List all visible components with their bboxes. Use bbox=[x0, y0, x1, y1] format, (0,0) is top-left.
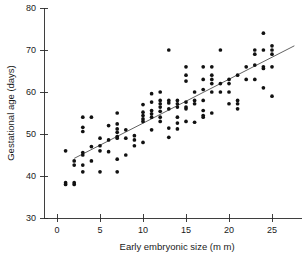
data-point bbox=[184, 100, 188, 104]
data-point bbox=[193, 102, 197, 106]
data-point bbox=[184, 65, 188, 69]
x-tick-label: 25 bbox=[267, 225, 277, 235]
data-point bbox=[150, 92, 154, 96]
data-point bbox=[201, 88, 205, 92]
data-point bbox=[115, 127, 119, 131]
data-point bbox=[115, 157, 119, 161]
data-point bbox=[219, 82, 223, 86]
data-point bbox=[176, 127, 180, 131]
data-point bbox=[201, 65, 205, 69]
data-point bbox=[158, 90, 162, 94]
data-point bbox=[98, 144, 102, 148]
data-point bbox=[107, 124, 111, 128]
y-tick-label: 70 bbox=[26, 45, 36, 55]
data-point bbox=[201, 78, 205, 82]
data-point bbox=[167, 126, 171, 130]
x-axis-tick-labels: 0510152025 bbox=[54, 225, 277, 235]
data-point bbox=[115, 170, 119, 174]
data-point bbox=[201, 109, 205, 113]
data-point bbox=[124, 128, 128, 132]
data-point bbox=[115, 130, 119, 134]
data-point bbox=[81, 115, 85, 119]
data-point bbox=[262, 48, 266, 52]
data-point bbox=[253, 48, 257, 52]
data-point bbox=[176, 105, 180, 109]
data-point bbox=[210, 90, 214, 94]
data-point bbox=[124, 153, 128, 157]
data-point bbox=[262, 31, 266, 35]
y-axis-tick-labels: 304050607080 bbox=[26, 3, 36, 223]
data-point bbox=[167, 48, 171, 52]
data-point bbox=[141, 110, 145, 114]
data-point bbox=[81, 163, 85, 167]
data-point bbox=[150, 115, 154, 119]
data-point bbox=[90, 159, 94, 163]
data-point bbox=[107, 150, 111, 154]
data-point bbox=[167, 107, 171, 111]
data-point bbox=[201, 115, 205, 119]
y-axis-title: Gestational age (days) bbox=[5, 65, 16, 161]
data-point bbox=[72, 159, 76, 163]
data-point bbox=[150, 100, 154, 104]
data-point bbox=[81, 170, 85, 174]
data-point bbox=[201, 99, 205, 103]
data-point bbox=[176, 121, 180, 125]
data-point bbox=[270, 44, 274, 48]
tick-marks bbox=[40, 8, 272, 222]
data-point bbox=[270, 65, 274, 69]
data-point bbox=[210, 73, 214, 77]
data-point bbox=[141, 120, 145, 124]
data-point bbox=[124, 136, 128, 140]
data-point bbox=[210, 111, 214, 115]
y-tick-label: 50 bbox=[26, 129, 36, 139]
data-point bbox=[64, 149, 68, 153]
axes bbox=[44, 8, 302, 218]
x-tick-label: 0 bbox=[54, 225, 59, 235]
data-point bbox=[270, 94, 274, 98]
data-point bbox=[219, 90, 223, 94]
data-point bbox=[133, 144, 137, 148]
data-point bbox=[98, 149, 102, 153]
data-point bbox=[236, 73, 240, 77]
data-point bbox=[253, 78, 257, 82]
data-point bbox=[236, 99, 240, 103]
x-tick-label: 20 bbox=[224, 225, 234, 235]
data-point bbox=[158, 105, 162, 109]
data-point bbox=[133, 138, 137, 142]
data-point bbox=[227, 90, 231, 94]
data-point bbox=[98, 136, 102, 140]
data-point bbox=[115, 111, 119, 115]
data-point bbox=[184, 107, 188, 111]
data-point bbox=[184, 73, 188, 77]
x-axis-title: Early embryonic size (m m) bbox=[120, 241, 235, 252]
data-point bbox=[244, 78, 248, 82]
data-point bbox=[210, 82, 214, 86]
x-tick-label: 15 bbox=[181, 225, 191, 235]
data-point bbox=[270, 48, 274, 52]
data-point bbox=[115, 136, 119, 140]
data-point bbox=[244, 65, 248, 69]
data-point bbox=[158, 99, 162, 103]
x-tick-label: 5 bbox=[97, 225, 102, 235]
data-point bbox=[176, 102, 180, 106]
data-point bbox=[184, 79, 188, 83]
data-point bbox=[253, 63, 257, 67]
data-point bbox=[210, 65, 214, 69]
y-tick-label: 30 bbox=[26, 213, 36, 223]
data-point bbox=[262, 67, 266, 71]
data-point bbox=[141, 114, 145, 118]
data-point bbox=[133, 134, 137, 138]
data-point bbox=[141, 141, 145, 145]
data-point bbox=[81, 153, 85, 157]
y-tick-label: 60 bbox=[26, 87, 36, 97]
data-point bbox=[227, 82, 231, 86]
data-point bbox=[176, 115, 180, 119]
data-point bbox=[210, 78, 214, 82]
data-point bbox=[167, 101, 171, 105]
data-point bbox=[253, 52, 257, 56]
data-point bbox=[219, 48, 223, 52]
data-point bbox=[98, 170, 102, 174]
data-point bbox=[64, 183, 68, 187]
data-point bbox=[150, 109, 154, 113]
data-point bbox=[158, 109, 162, 113]
